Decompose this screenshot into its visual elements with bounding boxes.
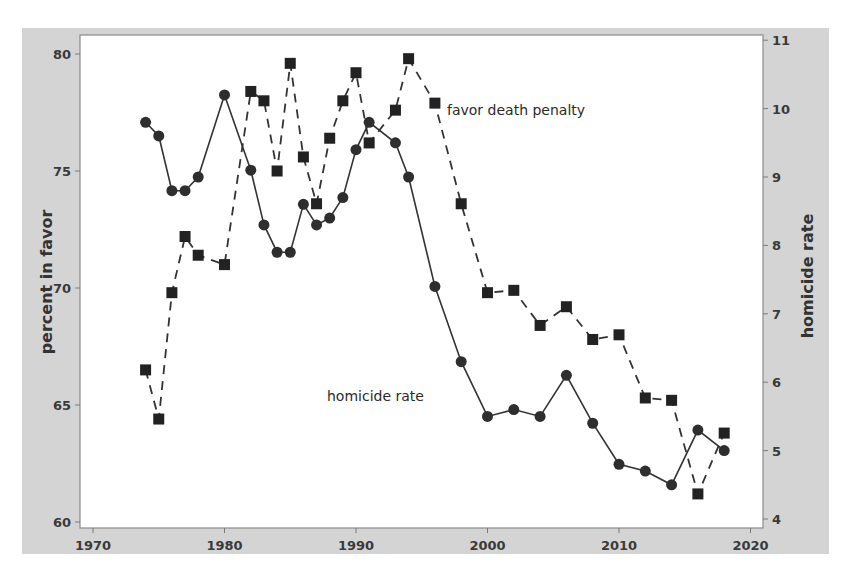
square-marker <box>614 329 625 340</box>
circle-marker <box>285 247 296 258</box>
x-tick-label: 1990 <box>338 538 374 553</box>
y-tick-label-left: 75 <box>53 164 71 179</box>
square-marker <box>403 53 414 64</box>
y-tick-label-right: 7 <box>772 307 781 322</box>
square-marker <box>351 67 362 78</box>
square-marker <box>456 198 467 209</box>
x-tick-label: 2020 <box>732 538 768 553</box>
circle-marker <box>272 247 283 258</box>
circle-marker <box>535 411 546 422</box>
x-tick-label: 1980 <box>206 538 242 553</box>
y-tick-label-right: 8 <box>772 238 781 253</box>
square-marker <box>364 137 375 148</box>
x-tick-label: 1970 <box>75 538 111 553</box>
square-marker <box>337 95 348 106</box>
circle-marker <box>193 172 204 183</box>
left-axis-title: percent in favor <box>37 210 56 355</box>
square-marker <box>258 95 269 106</box>
circle-marker <box>456 356 467 367</box>
circle-marker <box>324 213 335 224</box>
right-axis-title: homicide rate <box>798 214 817 339</box>
y-tick-label-left: 80 <box>53 47 71 62</box>
annotation-favor-death-penalty: favor death penalty <box>447 102 585 118</box>
circle-marker <box>258 219 269 230</box>
annotation-homicide-rate: homicide rate <box>327 388 424 404</box>
circle-marker <box>640 466 651 477</box>
circle-marker <box>219 89 230 100</box>
square-marker <box>482 287 493 298</box>
square-marker <box>219 259 230 270</box>
x-tick-label: 2010 <box>601 538 637 553</box>
square-marker <box>193 250 204 261</box>
square-marker <box>561 301 572 312</box>
y-tick-label-left: 65 <box>53 398 71 413</box>
circle-marker <box>508 404 519 415</box>
circle-marker <box>692 425 703 436</box>
circle-marker <box>166 185 177 196</box>
square-marker <box>719 428 730 439</box>
square-marker <box>692 488 703 499</box>
circle-marker <box>666 479 677 490</box>
y-tick-label-right: 4 <box>772 512 781 527</box>
circle-marker <box>403 172 414 183</box>
y-tick-label-right: 5 <box>772 444 781 459</box>
circle-marker <box>614 459 625 470</box>
y-tick-label-right: 11 <box>772 33 790 48</box>
square-marker <box>640 392 651 403</box>
square-marker <box>666 395 677 406</box>
circle-marker <box>337 192 348 203</box>
square-marker <box>535 320 546 331</box>
dual-axis-line-chart: 197019801990200020102020 6065707580 4567… <box>0 0 845 582</box>
y-tick-label-right: 9 <box>772 170 781 185</box>
circle-marker <box>311 219 322 230</box>
y-tick-label-right: 6 <box>772 375 781 390</box>
circle-marker <box>719 445 730 456</box>
square-marker <box>508 285 519 296</box>
square-marker <box>390 105 401 116</box>
circle-marker <box>482 411 493 422</box>
square-marker <box>245 86 256 97</box>
chart: 197019801990200020102020 6065707580 4567… <box>0 0 845 582</box>
circle-marker <box>587 418 598 429</box>
circle-marker <box>390 137 401 148</box>
square-marker <box>324 133 335 144</box>
circle-marker <box>180 185 191 196</box>
circle-marker <box>429 281 440 292</box>
x-tick-label: 2000 <box>469 538 505 553</box>
circle-marker <box>364 117 375 128</box>
circle-marker <box>153 130 164 141</box>
circle-marker <box>351 144 362 155</box>
square-marker <box>311 198 322 209</box>
y-tick-label-left: 60 <box>53 515 71 530</box>
square-marker <box>272 166 283 177</box>
y-tick-label-right: 10 <box>772 102 790 117</box>
square-marker <box>285 58 296 69</box>
circle-marker <box>561 370 572 381</box>
square-marker <box>587 334 598 345</box>
circle-marker <box>245 165 256 176</box>
circle-marker <box>298 199 309 210</box>
square-marker <box>140 364 151 375</box>
plot-area <box>80 35 763 528</box>
cropped-caption <box>0 575 845 582</box>
square-marker <box>429 98 440 109</box>
square-marker <box>166 287 177 298</box>
circle-marker <box>140 117 151 128</box>
square-marker <box>298 151 309 162</box>
square-marker <box>153 414 164 425</box>
square-marker <box>180 231 191 242</box>
